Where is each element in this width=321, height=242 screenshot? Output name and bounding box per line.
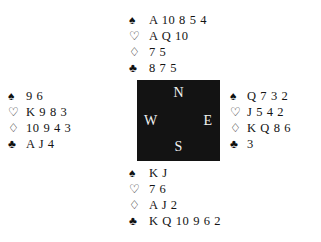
- north-diamonds-ranks: 7 5: [149, 44, 166, 60]
- west-diamonds-row: ♢ 10 9 4 3: [8, 120, 71, 136]
- west-diamonds-ranks: 10 9 4 3: [26, 120, 71, 136]
- south-diamonds-row: ♢ A J 2: [129, 197, 221, 213]
- south-clubs-ranks: K Q 10 9 6 2: [149, 213, 221, 229]
- diamond-icon: ♢: [129, 44, 149, 60]
- club-icon: ♣: [230, 136, 247, 152]
- north-clubs-row: ♣ 8 7 5: [129, 60, 207, 76]
- spade-icon: ♠: [230, 88, 247, 104]
- north-spades-row: ♠ A 10 8 5 4: [129, 12, 207, 28]
- east-spades-ranks: Q 7 3 2: [247, 88, 288, 104]
- heart-icon: ♡: [129, 181, 149, 197]
- spade-icon: ♠: [8, 88, 26, 104]
- south-clubs-row: ♣ K Q 10 9 6 2: [129, 213, 221, 229]
- compass-east-label: E: [203, 114, 212, 128]
- west-hearts-ranks: K 9 8 3: [26, 104, 67, 120]
- north-diamonds-row: ♢ 7 5: [129, 44, 207, 60]
- east-hearts-ranks: J 5 4 2: [247, 104, 284, 120]
- compass-west-label: W: [144, 114, 157, 128]
- compass-box: N W E S: [137, 80, 220, 161]
- heart-icon: ♡: [230, 104, 247, 120]
- east-spades-row: ♠ Q 7 3 2: [230, 88, 291, 104]
- east-clubs-row: ♣ 3: [230, 136, 291, 152]
- north-spades-ranks: A 10 8 5 4: [149, 12, 207, 28]
- heart-icon: ♡: [129, 28, 149, 44]
- east-hand: ♠ Q 7 3 2 ♡ J 5 4 2 ♢ K Q 8 6 ♣ 3: [230, 88, 291, 152]
- south-diamonds-ranks: A J 2: [149, 197, 178, 213]
- north-hearts-row: ♡ A Q 10: [129, 28, 207, 44]
- compass-south-label: S: [137, 140, 220, 154]
- diamond-icon: ♢: [129, 197, 149, 213]
- south-spades-ranks: K J: [149, 165, 168, 181]
- east-diamonds-row: ♢ K Q 8 6: [230, 120, 291, 136]
- west-clubs-ranks: A J 4: [26, 136, 55, 152]
- diamond-icon: ♢: [230, 120, 247, 136]
- club-icon: ♣: [129, 60, 149, 76]
- west-clubs-row: ♣ A J 4: [8, 136, 71, 152]
- east-hearts-row: ♡ J 5 4 2: [230, 104, 291, 120]
- spade-icon: ♠: [129, 165, 149, 181]
- diamond-icon: ♢: [8, 120, 26, 136]
- spade-icon: ♠: [129, 12, 149, 28]
- east-clubs-ranks: 3: [247, 136, 254, 152]
- south-spades-row: ♠ K J: [129, 165, 221, 181]
- west-spades-row: ♠ 9 6: [8, 88, 71, 104]
- heart-icon: ♡: [8, 104, 26, 120]
- north-clubs-ranks: 8 7 5: [149, 60, 177, 76]
- east-diamonds-ranks: K Q 8 6: [247, 120, 291, 136]
- club-icon: ♣: [8, 136, 26, 152]
- compass-north-label: N: [137, 86, 220, 100]
- club-icon: ♣: [129, 213, 149, 229]
- west-hearts-row: ♡ K 9 8 3: [8, 104, 71, 120]
- south-hearts-ranks: 7 6: [149, 181, 166, 197]
- north-hearts-ranks: A Q 10: [149, 28, 189, 44]
- south-hand: ♠ K J ♡ 7 6 ♢ A J 2 ♣ K Q 10 9 6 2: [129, 165, 221, 229]
- south-hearts-row: ♡ 7 6: [129, 181, 221, 197]
- west-hand: ♠ 9 6 ♡ K 9 8 3 ♢ 10 9 4 3 ♣ A J 4: [8, 88, 71, 152]
- north-hand: ♠ A 10 8 5 4 ♡ A Q 10 ♢ 7 5 ♣ 8 7 5: [129, 12, 207, 76]
- west-spades-ranks: 9 6: [26, 88, 43, 104]
